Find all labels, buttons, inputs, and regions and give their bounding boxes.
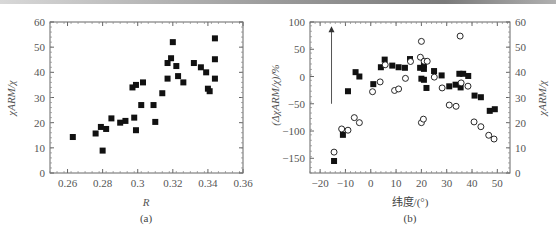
caption-a: (a) — [140, 212, 153, 225]
axis-ticks-b: −20−1001020304050100500−50−100−150010203… — [282, 16, 526, 189]
y-right-tick-label: 30 — [515, 92, 527, 104]
y-right-tick-label: 60 — [515, 16, 527, 28]
data-point-square — [212, 76, 218, 82]
arrow-head-icon — [329, 26, 335, 32]
x-tick-label: 50 — [492, 177, 504, 189]
y-tick-label: 60 — [34, 16, 46, 28]
data-point-square — [140, 79, 146, 85]
data-point-circle — [424, 58, 430, 64]
data-point-square — [93, 130, 99, 136]
y-right-tick-label: 50 — [515, 41, 527, 53]
x-tick-label: −20 — [312, 177, 330, 189]
data-point-square — [431, 68, 437, 74]
data-point-square — [423, 85, 429, 91]
y-tick-label: 0 — [300, 71, 306, 83]
data-point-square — [103, 126, 109, 132]
x-tick-label: 0.3 — [131, 177, 145, 189]
x-axis-label-b: 纬度/(°) — [392, 195, 429, 209]
y-tick-label: 20 — [34, 117, 46, 129]
data-point-square — [439, 72, 445, 78]
data-point-square — [70, 134, 76, 140]
data-point-circle — [478, 124, 484, 130]
data-point-circle — [351, 115, 357, 121]
data-point-square — [198, 64, 204, 70]
x-tick-label: 0.26 — [58, 177, 78, 189]
data-point-circle — [382, 62, 388, 68]
data-point-square — [131, 115, 137, 121]
y-tick-label: 50 — [294, 43, 306, 55]
data-point-square — [389, 63, 395, 69]
data-point-square — [421, 77, 427, 83]
data-point-square — [207, 88, 213, 94]
data-point-square — [180, 79, 186, 85]
data-point-square — [212, 35, 218, 41]
data-point-square — [173, 63, 179, 69]
data-point-circle — [465, 83, 471, 89]
data-point-circle — [396, 86, 402, 92]
data-point-square — [175, 73, 181, 79]
y-right-tick-label: 20 — [515, 117, 527, 129]
data-point-square — [191, 60, 197, 66]
plot-frame-a — [50, 22, 243, 173]
chart-panel-b: −20−1001020304050100500−50−100−150010203… — [269, 16, 548, 225]
data-point-square — [133, 82, 139, 88]
y-tick-label: 10 — [34, 142, 46, 154]
y-tick-label: 100 — [289, 16, 306, 28]
data-point-square — [152, 119, 158, 125]
data-point-square — [478, 94, 484, 100]
x-tick-label: 0.32 — [163, 177, 182, 189]
data-point-circle — [345, 127, 351, 133]
data-point-square — [370, 81, 376, 87]
data-point-square — [396, 64, 402, 70]
data-point-square — [122, 118, 128, 124]
y-right-tick-label: 0 — [515, 167, 521, 179]
x-tick-label: −10 — [337, 177, 355, 189]
data-point-square — [446, 83, 452, 89]
data-point-square — [108, 115, 114, 121]
data-point-circle — [457, 33, 463, 39]
data-point-square — [356, 74, 362, 80]
data-points-a — [70, 35, 218, 153]
data-point-circle — [439, 85, 445, 91]
y-right-tick-label: 10 — [515, 142, 527, 154]
x-tick-label: 0 — [368, 177, 374, 189]
y-tick-label: 30 — [34, 92, 46, 104]
x-tick-label: 0.34 — [198, 177, 218, 189]
data-point-square — [100, 148, 106, 154]
data-point-circle — [431, 74, 437, 80]
data-point-square — [492, 106, 498, 112]
y-right-tick-label: 40 — [515, 66, 527, 78]
data-point-square — [170, 39, 176, 45]
x-axis-label-a: R — [142, 196, 150, 208]
chart-panel-a: 0.260.280.30.320.340.360102030405060 R χ… — [5, 16, 253, 225]
y-tick-label: 0 — [40, 167, 46, 179]
data-point-circle — [339, 126, 345, 132]
y-axis-label-a: χARM/χ — [5, 79, 17, 116]
data-point-square — [340, 132, 346, 138]
data-point-square — [345, 88, 351, 94]
data-point-square — [203, 69, 209, 75]
data-point-square — [212, 56, 218, 62]
y-tick-label: −150 — [282, 152, 305, 164]
data-point-square — [165, 76, 171, 82]
x-tick-label: 0.28 — [93, 177, 113, 189]
data-point-square — [133, 127, 139, 133]
x-tick-label: 30 — [441, 177, 453, 189]
figure-canvas: 0.260.280.30.320.340.360102030405060 R χ… — [0, 0, 556, 239]
y-axis-label-left-b: (ΔχARM/χ)/% — [269, 64, 282, 125]
data-point-square — [465, 73, 471, 79]
data-point-circle — [420, 116, 426, 122]
data-point-square — [402, 65, 408, 71]
data-point-square — [472, 93, 478, 99]
data-point-circle — [458, 80, 464, 86]
data-point-square — [117, 120, 123, 126]
data-point-square — [421, 66, 427, 72]
y-tick-label: 50 — [34, 41, 46, 53]
data-point-circle — [486, 132, 492, 138]
data-point-square — [331, 158, 337, 164]
data-point-circle — [418, 38, 424, 44]
data-point-circle — [408, 59, 414, 65]
data-point-circle — [356, 120, 362, 126]
data-point-circle — [471, 119, 477, 125]
x-tick-label: 40 — [467, 177, 479, 189]
